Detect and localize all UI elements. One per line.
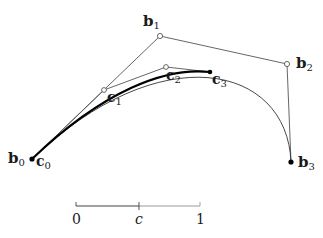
point-b0-marker (29, 156, 34, 161)
control-polygon-b (32, 36, 291, 162)
bezier-subcurve (32, 71, 210, 159)
bezier-subdivision-diagram: b0 c0 b1 b2 b3 c1 c2 c3 0 c 1 (0, 0, 323, 238)
parameter-scale-bar: 0 c 1 (72, 202, 205, 227)
label-b3: b3 (298, 153, 315, 172)
label-b1: b1 (143, 12, 160, 31)
point-c1-marker (102, 88, 107, 93)
scale-label-0: 0 (72, 211, 81, 227)
label-b2: b2 (296, 54, 313, 73)
label-c1: c1 (107, 89, 122, 107)
label-c0: c0 (36, 153, 51, 171)
label-c3: c3 (212, 71, 227, 89)
point-b1-marker (157, 33, 162, 38)
scale-label-c: c (135, 211, 143, 227)
scale-label-1: 1 (196, 211, 205, 227)
bezier-curve-full (32, 77, 291, 162)
label-b0: b0 (8, 149, 25, 168)
point-b3-marker (288, 159, 293, 164)
control-polygon-c (32, 67, 210, 159)
point-b2-marker (284, 61, 289, 66)
label-c2: c2 (166, 67, 181, 85)
